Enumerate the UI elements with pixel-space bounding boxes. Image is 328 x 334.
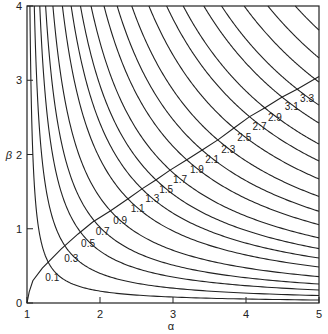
y-tick-label: 3 [16,74,22,86]
x-axis-ticks: 12345 [24,297,322,320]
contour-curve [222,6,319,105]
x-tick-label: 4 [243,308,249,320]
contour-label: 0.9 [113,215,127,226]
contour-curve [295,6,319,30]
contour-label: 3.1 [285,101,299,112]
contour-label: 1.3 [145,193,159,204]
contour-label: 0.3 [64,253,78,264]
contour-chart: 0.10.30.50.70.91.11.31.51.71.92.12.32.52… [0,0,328,334]
y-tick-label: 1 [16,223,22,235]
x-tick-label: 5 [316,308,322,320]
contour-label: 2.7 [253,121,267,132]
contour-label: 2.5 [237,132,251,143]
contour-curve [244,6,319,82]
x-axis-title: α [168,320,175,332]
contour-label: 1.9 [190,164,204,175]
contour-curve [104,6,319,225]
y-tick-label: 2 [16,149,22,161]
contour-label: 1.1 [131,203,145,214]
contour-curve [91,6,319,238]
contour-label: 2.9 [268,112,282,123]
x-tick-label: 2 [97,308,103,320]
contour-label: 0.7 [96,226,110,237]
contour-label: 2.3 [221,144,235,155]
contour-label: 0.5 [81,238,95,249]
y-tick-label: 0 [16,297,22,309]
contour-curve [71,6,319,258]
contour-label: 1.5 [159,184,173,195]
contour-labels: 0.10.30.50.70.91.11.31.51.71.92.12.32.52… [45,93,314,283]
contour-curve [268,6,319,58]
contour-label: 0.1 [45,272,59,283]
contour-curve [183,6,319,144]
y-tick-label: 4 [16,0,22,12]
contour-label: 3.3 [300,93,314,104]
contour-curve [80,6,319,249]
contour-label: 1.7 [173,174,187,185]
contour-label: 2.1 [205,154,219,165]
x-tick-label: 3 [170,308,176,320]
x-tick-label: 1 [24,308,30,320]
y-axis-title: β [5,149,13,161]
